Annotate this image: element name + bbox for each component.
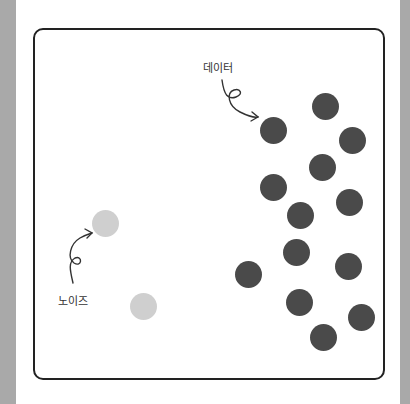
data-point: [260, 174, 287, 201]
data-point: [339, 127, 366, 154]
data-point: [235, 261, 262, 288]
data-point: [287, 202, 314, 229]
data-point: [310, 324, 337, 351]
data-point: [312, 93, 339, 120]
noise-point: [130, 293, 157, 320]
data-point: [336, 189, 363, 216]
noise-point: [92, 210, 119, 237]
data-point: [348, 304, 375, 331]
data-point: [335, 253, 362, 280]
data-point: [286, 289, 313, 316]
data-point: [260, 117, 287, 144]
data-point: [309, 154, 336, 181]
noise-arrow-icon: [70, 233, 92, 283]
data-point: [283, 239, 310, 266]
